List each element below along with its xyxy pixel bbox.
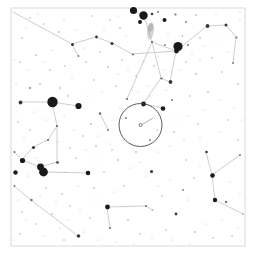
star <box>231 235 232 236</box>
star <box>194 231 196 233</box>
star <box>151 13 154 16</box>
star <box>93 79 94 80</box>
star <box>29 129 30 130</box>
star <box>19 233 20 234</box>
star <box>169 80 173 84</box>
faint-star <box>15 83 16 84</box>
star <box>237 83 239 85</box>
faint-star <box>179 69 180 70</box>
faint-star <box>237 227 238 228</box>
faint-star <box>139 161 140 162</box>
faint-star <box>43 61 44 62</box>
faint-star <box>27 69 28 70</box>
faint-star <box>27 175 28 176</box>
star <box>49 69 51 71</box>
star <box>82 135 83 136</box>
faint-star <box>233 107 234 108</box>
star <box>56 125 58 127</box>
star <box>75 103 81 109</box>
star <box>237 139 238 140</box>
star <box>56 161 59 164</box>
star <box>107 129 109 131</box>
star <box>21 37 23 39</box>
star <box>232 62 234 64</box>
faint-star <box>203 109 204 110</box>
star <box>39 83 41 85</box>
star <box>29 17 30 18</box>
faint-star <box>147 85 148 86</box>
star <box>212 237 213 238</box>
faint-star <box>239 193 240 194</box>
faint-star <box>205 223 206 224</box>
faint-star <box>157 151 158 152</box>
star <box>14 151 16 153</box>
star <box>110 42 113 45</box>
star <box>95 145 97 147</box>
faint-star <box>199 165 200 166</box>
star <box>199 37 201 39</box>
faint-star <box>73 129 74 130</box>
faint-star <box>51 49 52 50</box>
star <box>17 121 18 122</box>
star <box>227 119 228 120</box>
faint-star <box>137 91 138 92</box>
star <box>32 146 35 149</box>
star <box>221 71 222 72</box>
star <box>205 151 208 154</box>
faint-star <box>83 47 84 48</box>
faint-star <box>131 89 132 90</box>
star <box>163 18 167 22</box>
star <box>14 185 16 187</box>
faint-star <box>15 111 16 112</box>
star <box>91 15 92 16</box>
faint-star <box>149 95 150 96</box>
star <box>185 159 186 160</box>
star <box>174 13 176 15</box>
faint-star <box>17 199 18 200</box>
star <box>195 73 197 75</box>
star <box>175 213 178 216</box>
star <box>105 205 110 210</box>
faint-star <box>65 171 66 172</box>
faint-star <box>97 135 98 136</box>
sky-canvas <box>0 0 255 258</box>
faint-star <box>77 185 78 186</box>
star <box>45 187 46 188</box>
star <box>13 170 17 174</box>
star <box>173 131 175 133</box>
star <box>132 54 134 56</box>
faint-star <box>127 69 128 70</box>
star <box>139 11 147 19</box>
star <box>78 55 80 57</box>
star <box>157 11 159 13</box>
faint-star <box>43 235 44 236</box>
faint-star <box>95 199 96 200</box>
star <box>117 159 119 161</box>
star <box>236 37 238 39</box>
faint-star <box>39 195 40 196</box>
star <box>67 95 69 97</box>
star <box>161 106 166 111</box>
star <box>165 229 166 230</box>
star <box>75 157 76 158</box>
star <box>109 19 110 20</box>
star <box>69 147 70 148</box>
faint-star <box>101 91 102 92</box>
faint-star <box>103 29 104 30</box>
star <box>182 35 184 37</box>
star <box>152 209 154 211</box>
faint-star <box>67 219 68 220</box>
faint-star <box>187 199 188 200</box>
star-chart <box>0 0 255 258</box>
faint-star <box>221 219 222 220</box>
faint-star <box>111 119 112 120</box>
faint-star <box>157 55 158 56</box>
star <box>64 65 65 66</box>
star <box>30 199 32 201</box>
star <box>145 205 147 207</box>
faint-star <box>13 239 14 240</box>
faint-star <box>63 19 64 20</box>
faint-star <box>215 13 216 14</box>
star <box>95 36 98 39</box>
star <box>85 61 87 63</box>
